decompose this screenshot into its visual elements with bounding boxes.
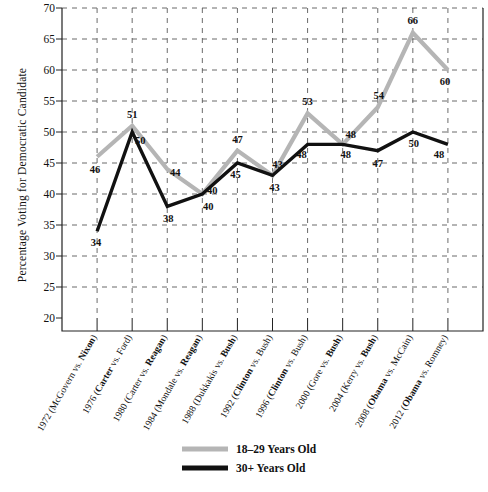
y-axis-tick-label: 25 — [44, 281, 56, 293]
data-label: 43 — [272, 159, 283, 170]
y-axis-tick-label: 65 — [44, 33, 56, 45]
chart-container: Percentage Voting for Democratic Candida… — [0, 0, 488, 492]
data-label: 50 — [409, 138, 420, 149]
data-label: 48 — [296, 149, 307, 160]
data-label: 45 — [230, 169, 241, 180]
data-label: 43 — [269, 182, 280, 193]
data-label: 66 — [408, 15, 419, 26]
data-label: 54 — [374, 90, 385, 101]
y-axis-tick-label: 35 — [44, 219, 56, 231]
data-label: 38 — [163, 213, 174, 224]
y-axis-tick-label: 50 — [44, 126, 56, 138]
y-axis-tick-label: 20 — [44, 312, 56, 324]
legend-label: 18–29 Years Old — [236, 443, 317, 455]
legend-label: 30+ Years Old — [236, 462, 306, 474]
chart-legend: 18–29 Years Old30+ Years Old — [182, 443, 317, 474]
data-label: 46 — [90, 164, 101, 175]
y-axis-tick-label: 70 — [44, 2, 56, 14]
data-label: 51 — [127, 109, 138, 120]
data-point-labels: 4651444047435348546660345038404543484847… — [90, 15, 450, 248]
y-axis-tick-label: 60 — [44, 64, 56, 76]
y-axis-title: Percentage Voting for Democratic Candida… — [16, 68, 29, 282]
data-label: 53 — [302, 96, 313, 107]
y-axis-tick-label: 45 — [44, 157, 56, 169]
data-label: 40 — [207, 185, 218, 196]
x-axis-label: 1972 (McGovern vs. Nixon) — [34, 333, 99, 434]
x-axis-labels: 1972 (McGovern vs. Nixon)1976 (Carter vs… — [34, 333, 450, 434]
x-axis-tickmarks — [97, 318, 448, 331]
y-axis-tick-label: 30 — [44, 250, 56, 262]
data-label: 47 — [373, 158, 384, 169]
data-label: 34 — [91, 237, 102, 248]
data-label: 50 — [135, 135, 146, 146]
data-label: 60 — [440, 76, 451, 87]
y-axis-tick-label: 55 — [44, 95, 56, 107]
y-axis-tick-label: 40 — [44, 188, 56, 200]
data-label: 48 — [345, 129, 356, 140]
y-axis-ticks: 2025303540455055606570 — [44, 2, 63, 324]
data-label: 47 — [232, 134, 243, 145]
data-label: 44 — [170, 167, 181, 178]
data-label: 40 — [203, 201, 214, 212]
data-label: 48 — [340, 149, 351, 160]
line-chart: Percentage Voting for Democratic Candida… — [0, 0, 488, 492]
data-label: 48 — [434, 149, 445, 160]
